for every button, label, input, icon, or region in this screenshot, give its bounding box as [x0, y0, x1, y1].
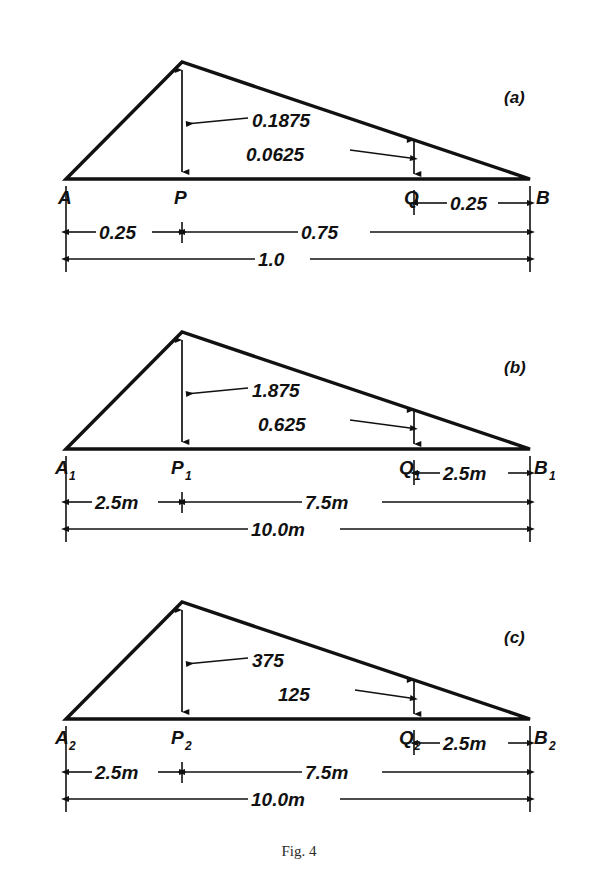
panel-tag-a: (a): [504, 88, 525, 107]
point-label-B-a: B: [536, 187, 550, 208]
ordinate-minor-value-b: 0.625: [258, 414, 306, 435]
panel-b: 1.875 0.625 A 1 P 1 Q 1 B 1 2.5m 2.: [54, 332, 556, 542]
point-label-B-sub-c: 2: [548, 739, 556, 753]
ordinate-minor-value-a: 0.0625: [246, 144, 305, 165]
dim-q-to-b-label-b: 2.5m: [442, 463, 486, 484]
ordinate-major-value-a: 0.1875: [252, 110, 311, 131]
point-label-A-sub-c: 2: [68, 739, 76, 753]
influence-line-diagram: 0.1875 0.0625 A P Q B 0.25 0.25: [0, 0, 598, 877]
dim-a-to-b-label-b: 10.0m: [251, 519, 305, 540]
dim-p-to-b-label-b: 7.5m: [305, 492, 348, 513]
leader-major-b: [186, 388, 248, 394]
figure-root: 0.1875 0.0625 A P Q B 0.25 0.25: [0, 0, 598, 877]
leader-major-c: [186, 658, 248, 664]
leader-minor-c: [355, 690, 410, 698]
point-label-P-a: P: [174, 187, 187, 208]
panel-c: 375 125 A 2 P 2 Q 2 B 2 2.5m 2.5m: [54, 602, 556, 812]
dim-p-to-b-label-a: 0.75: [301, 222, 338, 243]
panel-tag-c: (c): [504, 628, 525, 647]
ordinate-minor-value-c: 125: [278, 684, 310, 705]
leader-major-a: [186, 118, 248, 124]
point-label-Q-sub-b: 1: [414, 469, 421, 483]
point-label-B-c: B: [534, 727, 548, 748]
dim-a-to-b-label-c: 10.0m: [251, 789, 305, 810]
dim-a-to-p-label-b: 2.5m: [94, 492, 138, 513]
point-label-Q-b: Q: [399, 457, 414, 478]
dim-q-to-b-label-a: 0.25: [450, 193, 487, 214]
dim-a-to-p-label-c: 2.5m: [94, 762, 138, 783]
panel-tag-b: (b): [504, 358, 526, 377]
dim-a-to-p-label-a: 0.25: [99, 222, 136, 243]
leader-minor-a: [350, 150, 410, 158]
figure-caption: Fig. 4: [281, 843, 317, 859]
point-label-A-a: A: [57, 187, 72, 208]
ordinate-major-value-b: 1.875: [252, 380, 300, 401]
leader-minor-b: [350, 420, 410, 428]
point-label-P-sub-c: 2: [184, 739, 192, 753]
point-label-Q-c: Q: [399, 727, 414, 748]
panel-a: 0.1875 0.0625 A P Q B 0.25 0.25: [57, 62, 550, 272]
dim-p-to-b-label-c: 7.5m: [305, 762, 348, 783]
point-label-P-sub-b: 1: [185, 469, 192, 483]
point-label-B-sub-b: 1: [549, 469, 556, 483]
point-label-P-b: P: [171, 457, 184, 478]
point-label-Q-a: Q: [404, 187, 419, 208]
dim-q-to-b-label-c: 2.5m: [442, 733, 486, 754]
point-label-B-b: B: [534, 457, 548, 478]
point-label-A-sub-b: 1: [69, 469, 76, 483]
dim-a-to-b-label-a: 1.0: [258, 249, 285, 270]
point-label-P-c: P: [171, 727, 184, 748]
ordinate-major-value-c: 375: [252, 650, 284, 671]
